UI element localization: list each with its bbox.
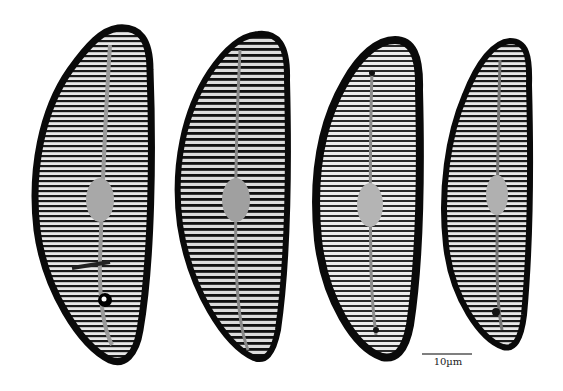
diatom-valve-1 bbox=[35, 28, 151, 362]
micrograph-plate: 10µm bbox=[0, 0, 563, 391]
diatom-valve-4 bbox=[444, 41, 530, 348]
scale-bar-label: 10µm bbox=[422, 356, 474, 367]
diatom-valve-3 bbox=[316, 40, 420, 358]
diatom-figure bbox=[0, 0, 563, 391]
diatom-valve-2 bbox=[178, 34, 288, 359]
